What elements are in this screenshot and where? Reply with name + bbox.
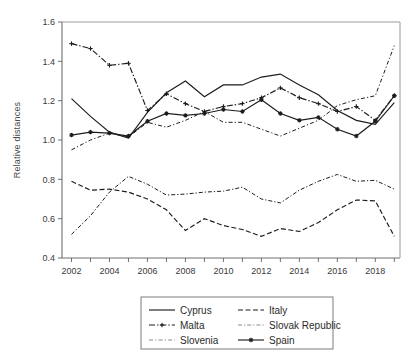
y-tick-label: 0.4 [42,253,55,263]
data-point-marker [240,101,244,105]
data-point-marker [335,127,339,131]
legend-label: Cyprus [180,305,212,316]
data-point-marker [297,118,301,122]
y-tick-label: 1.4 [42,57,55,67]
data-point-marker [316,115,320,119]
data-point-marker [354,134,358,138]
x-tick-label: 2016 [327,266,347,276]
data-point-marker [69,41,73,45]
data-point-marker [69,133,73,137]
series-slovak-republic [71,174,394,234]
data-point-marker [278,86,282,90]
y-tick-label: 1.6 [42,17,55,27]
y-tick-label: 0.6 [42,214,55,224]
y-axis-title-group: Relative distances [12,101,22,178]
data-point-marker [88,46,92,50]
y-axis-ticks: 0.40.60.81.01.21.41.6 [42,17,62,263]
y-axis-title: Relative distances [12,101,22,178]
x-axis-ticks: 200220042006200820102012201420162018 [61,258,394,276]
x-tick-label: 2012 [251,266,271,276]
x-tick-label: 2004 [99,266,119,276]
data-point-marker [202,111,206,115]
data-point-marker [392,94,396,98]
data-point-marker [183,113,187,117]
line-chart: Relative distances 0.40.60.81.01.21.41.6… [0,0,418,357]
data-point-marker [316,101,320,105]
data-point-marker [221,107,225,111]
data-point-marker [297,96,301,100]
chart-legend: CyprusItalyMaltaSlovak RepublicSloveniaS… [141,297,341,349]
data-point-marker [107,131,111,135]
legend-label: Slovenia [180,335,219,346]
data-point-marker [145,119,149,123]
x-tick-label: 2010 [213,266,233,276]
data-point-marker [183,101,187,105]
x-tick-label: 2006 [137,266,157,276]
data-point-marker [88,130,92,134]
legend-label: Italy [269,305,287,316]
x-tick-label: 2014 [289,266,309,276]
legend-label: Malta [180,320,205,331]
data-point-marker [373,119,377,123]
data-series-group [69,41,396,236]
series-cyprus [71,74,394,138]
data-point-marker [126,134,130,138]
data-point-marker [240,109,244,113]
x-tick-label: 2002 [61,266,81,276]
y-tick-label: 0.8 [42,175,55,185]
y-tick-label: 1.2 [42,96,55,106]
y-tick-label: 1.0 [42,135,55,145]
data-point-marker [278,111,282,115]
x-tick-label: 2018 [365,266,385,276]
data-point-marker [126,61,130,65]
data-point-marker [164,111,168,115]
data-point-marker [259,97,263,101]
chart-container: Relative distances 0.40.60.81.01.21.41.6… [0,0,418,357]
x-tick-label: 2008 [175,266,195,276]
legend-label: Slovak Republic [269,320,341,331]
legend-label: Spain [269,335,295,346]
axis-lines [62,22,400,258]
